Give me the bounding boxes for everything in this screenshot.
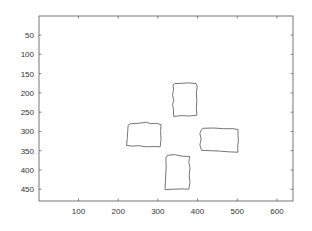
y-tick-label: 350	[21, 147, 35, 156]
y-tick-label: 450	[21, 185, 35, 194]
y-tick-label: 150	[21, 70, 35, 79]
x-tick-label: 200	[111, 207, 125, 216]
x-tick-label: 100	[72, 207, 86, 216]
figure-background	[0, 0, 312, 231]
figure: 100200300400500600 501001502002503003504…	[0, 0, 312, 231]
y-tick-label: 200	[21, 89, 35, 98]
x-tick-label: 400	[191, 207, 205, 216]
y-tick-label: 300	[21, 127, 35, 136]
x-tick-label: 300	[151, 207, 165, 216]
y-tick-label: 250	[21, 108, 35, 117]
x-tick-label: 600	[270, 207, 284, 216]
x-tick-label: 500	[231, 207, 245, 216]
y-tick-label: 50	[25, 31, 34, 40]
y-tick-label: 400	[21, 166, 35, 175]
y-tick-label: 100	[21, 50, 35, 59]
